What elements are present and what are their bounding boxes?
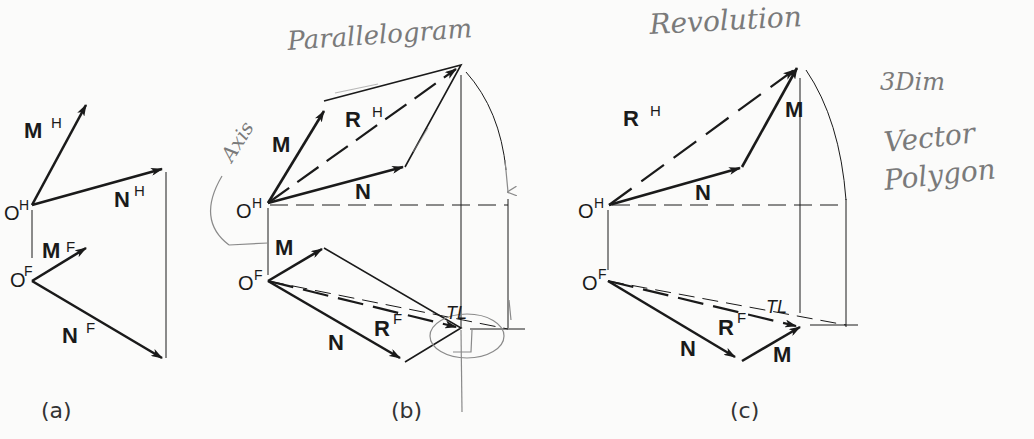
label-n-f: N	[62, 323, 78, 348]
svg-text:F: F	[24, 263, 33, 279]
label-r-h: R	[345, 107, 361, 132]
label-o-h: O	[578, 200, 594, 222]
caption-b: (b)	[391, 398, 422, 423]
label-r-h: R	[623, 106, 639, 131]
svg-text:F: F	[86, 319, 95, 336]
svg-text:H: H	[372, 103, 383, 120]
svg-text:F: F	[737, 309, 746, 326]
vector-n-front	[32, 281, 162, 358]
front-parallelogram-sides	[324, 248, 461, 362]
handwritten-axis: Axis	[215, 117, 259, 167]
label-n-top: N	[355, 179, 371, 204]
vector-n-top	[609, 168, 740, 205]
label-tl: TL	[446, 303, 467, 323]
label-m-top: M	[272, 132, 290, 157]
svg-text:H: H	[594, 195, 604, 211]
label-o-f: O	[238, 272, 254, 294]
caption-a: (a)	[41, 398, 72, 423]
label-tl: TL	[766, 297, 787, 317]
label-o-h: O	[236, 200, 252, 222]
svg-text:H: H	[19, 197, 29, 213]
label-n-front: N	[680, 336, 696, 361]
axis-pointer	[211, 176, 229, 245]
label-m-front: M	[773, 342, 791, 367]
label-m-front: M	[275, 235, 293, 260]
label-r-f: R	[374, 316, 390, 341]
side-notes: 3Dim Vector Polygon	[880, 68, 997, 197]
panel-c: R H M N O H O F N R F M TL Revolution (c…	[578, 0, 858, 423]
label-n-front: N	[328, 330, 344, 355]
panel-b: M R H N O H M O F N R F TL Axis Parallel…	[211, 13, 525, 423]
label-m-top: M	[785, 97, 803, 122]
note-3dim: 3Dim	[880, 68, 945, 96]
note-polygon: Polygon	[881, 152, 997, 197]
panel-a: M H N H O H M F O F N F (a)	[4, 105, 166, 423]
handwritten-revolution: Revolution	[648, 0, 803, 41]
label-n-h: N	[114, 187, 130, 212]
resultant-r-front	[268, 281, 456, 327]
revolution-arc	[806, 70, 846, 200]
svg-text:F: F	[66, 238, 75, 255]
label-m-f: M	[42, 238, 60, 263]
revolution-arc	[466, 72, 506, 170]
label-r-f: R	[718, 315, 734, 340]
vector-n-top	[268, 167, 403, 203]
svg-text:H: H	[51, 114, 62, 131]
svg-text:H: H	[134, 182, 145, 199]
svg-text:F: F	[393, 310, 402, 327]
svg-text:H: H	[650, 102, 661, 119]
label-o-h: O	[4, 202, 20, 224]
label-o-f: O	[582, 272, 598, 294]
handwritten-parallelogram: Parallelogram	[285, 13, 473, 56]
label-n-top: N	[695, 180, 711, 205]
vector-n-front	[608, 281, 735, 357]
svg-text:F: F	[254, 267, 263, 283]
svg-text:H: H	[252, 195, 262, 211]
vector-diagram-figure: M H N H O H M F O F N F (a)	[0, 0, 1034, 439]
note-vector: Vector	[882, 116, 978, 159]
label-m-h: M	[24, 118, 42, 143]
svg-text:F: F	[598, 266, 607, 282]
caption-c: (c)	[730, 398, 759, 423]
